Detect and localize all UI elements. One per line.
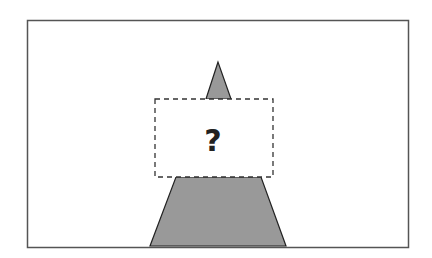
- diagram-canvas: ?: [0, 0, 432, 258]
- question-mark-label: ?: [204, 123, 221, 158]
